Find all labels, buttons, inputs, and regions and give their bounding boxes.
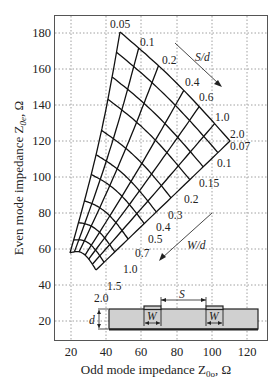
y-tick: 140 xyxy=(32,98,51,112)
x-axis-title: Odd mode impedance Z0o, Ω xyxy=(81,362,231,379)
y-tick: 60 xyxy=(39,242,52,256)
wd-label: 0.3 xyxy=(168,209,183,221)
y-tick: 120 xyxy=(32,134,51,148)
plot-frame xyxy=(55,16,268,341)
wd-label: 0.15 xyxy=(199,177,219,189)
x-tick-labels: 20 40 60 80 100 120 xyxy=(65,345,257,359)
wd-label: 0.4 xyxy=(156,221,171,233)
wd-arrow-label: W/d xyxy=(187,239,206,251)
x-tick: 20 xyxy=(65,345,78,359)
y-tick: 80 xyxy=(39,206,52,220)
sd-curve xyxy=(79,66,158,252)
x-tick: 80 xyxy=(171,345,184,359)
strip-left xyxy=(144,306,161,310)
y-tick: 180 xyxy=(32,26,51,40)
wd-label: 0.07 xyxy=(230,140,250,152)
gridlines xyxy=(55,16,267,340)
sd-label: 0.4 xyxy=(185,76,200,88)
x-tick: 120 xyxy=(238,345,257,359)
sd-label: 0.05 xyxy=(110,18,130,30)
wd-label: 1.0 xyxy=(123,263,138,275)
y-tick: 20 xyxy=(39,314,52,328)
wd-label: 0.1 xyxy=(217,157,232,169)
nomogram-chart: 20 40 60 80 100 120 20 40 60 80 100 120 … xyxy=(0,0,278,384)
substrate xyxy=(109,309,258,329)
inset-d-label: d xyxy=(89,314,95,326)
wd-label: 1.5 xyxy=(107,280,122,292)
x-tick: 40 xyxy=(100,345,113,359)
sd-label: 0.2 xyxy=(162,54,177,66)
y-tick: 40 xyxy=(39,278,52,292)
inset-w-right-label: W xyxy=(209,310,220,322)
strip-right xyxy=(206,306,223,310)
wd-label: 0.7 xyxy=(135,247,150,259)
microstrip-inset: W W S d xyxy=(89,288,258,330)
x-tick: 60 xyxy=(135,345,148,359)
wd-label: 0.2 xyxy=(184,193,199,205)
y-tick-labels: 20 40 60 80 100 120 140 160 180 xyxy=(32,26,51,328)
wd-label: 2.0 xyxy=(94,292,109,304)
inset-w-left-label: W xyxy=(147,310,158,322)
y-tick: 160 xyxy=(32,62,51,76)
sd-arrow-label: S/d xyxy=(195,51,210,63)
x-tick: 100 xyxy=(203,345,222,359)
y-axis-title: Even mode impedance Z0e, Ω xyxy=(11,101,28,255)
sd-label: 0.6 xyxy=(199,91,214,103)
sd-label: 0.1 xyxy=(140,36,155,48)
sd-label: 1.0 xyxy=(215,111,230,123)
y-tick: 100 xyxy=(32,170,51,184)
wd-label: 0.5 xyxy=(148,233,163,245)
wd-labels: 0.07 0.1 0.15 0.2 0.3 0.4 0.5 0.7 1.0 1.… xyxy=(94,140,250,304)
sd-label: 2.0 xyxy=(230,128,245,140)
inset-s-label: S xyxy=(179,288,185,300)
